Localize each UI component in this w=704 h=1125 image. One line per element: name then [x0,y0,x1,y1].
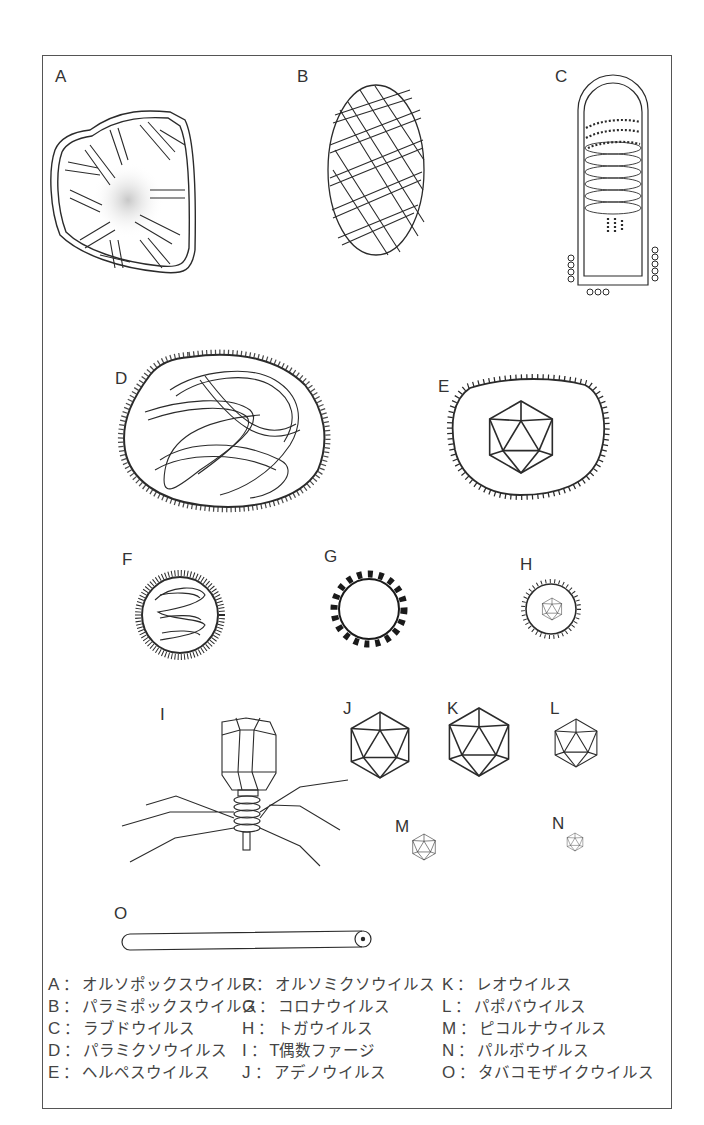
virus-h-drawing [523,581,579,637]
legend-name: アデノウイルス [274,1064,386,1082]
legend-item-h: H：トガウイルス [242,1020,373,1038]
virus-d-drawing [120,352,327,509]
legend-name: T偶数ファージ [270,1042,375,1060]
virus-f-drawing [138,573,222,657]
virus-c-drawing [568,75,658,295]
virus-g-drawing [334,574,404,644]
virus-n-drawing [567,833,583,851]
label-g: G [324,548,337,565]
legend-item-e: E：ヘルペスウイルス [48,1064,210,1082]
legend-name: トガウイルス [277,1020,373,1038]
label-n: N [552,815,564,832]
legend-name: オルソミクソウイルス [275,976,435,994]
label-j: J [343,700,352,717]
virus-m-drawing [413,834,436,860]
label-o: O [114,905,127,922]
legend-name: パルボウイルス [477,1042,589,1060]
label-l: L [550,700,559,717]
legend-name: パラミクソウイルス [83,1042,227,1060]
virus-o-drawing [122,931,371,950]
legend-name: レオウイルス [476,976,572,994]
label-a: A [55,68,66,85]
legend-item-f: F：オルソミクソウイルス [242,976,435,994]
legend-name: オルソポックスウイルス [82,976,258,994]
virus-illustrations [0,0,704,1125]
legend-name: パラミポックスウイルス [82,998,258,1016]
legend-item-g: G：コロナウイルス [242,998,390,1016]
virus-k-drawing [449,708,508,776]
label-f: F [122,551,132,568]
virus-l-drawing [555,719,597,767]
virus-a-drawing [51,111,195,273]
label-m: M [395,818,409,835]
label-k: K [447,700,458,717]
legend-item-i: I：T偶数ファージ [242,1042,375,1060]
legend-name: パポバウイルス [474,998,586,1016]
virus-j-drawing [351,712,408,778]
label-d: D [115,370,127,387]
virus-b-drawing [328,85,424,255]
label-b: B [297,68,308,85]
legend-item-a: A：オルソポックスウイルス [48,976,258,994]
legend-name: ヘルペスウイルス [82,1064,210,1082]
legend-item-l: L：パポバウイルス [442,998,586,1016]
legend-name: ラブドウイルス [83,1020,195,1038]
legend-item-m: M：ピコルナウイルス [442,1020,607,1038]
legend-item-d: D：パラミクソウイルス [48,1042,227,1060]
virus-i-drawing [122,718,348,866]
legend-item-j: J：アデノウイルス [242,1064,386,1082]
label-e: E [438,378,449,395]
legend-item-n: N：パルボウイルス [442,1042,589,1060]
legend-item-k: K：レオウイルス [442,976,572,994]
legend-item-b: B：パラミポックスウイルス [48,998,258,1016]
virus-e-drawing [450,377,608,498]
label-c: C [555,68,567,85]
legend-name: ピコルナウイルス [479,1020,607,1038]
legend-name: コロナウイルス [278,998,390,1016]
label-i: I [160,706,165,723]
legend-item-o: O：タバコモザイクウイルス [442,1064,654,1082]
legend-name: タバコモザイクウイルス [478,1064,654,1082]
legend-item-c: C：ラブドウイルス [48,1020,195,1038]
label-h: H [520,556,532,573]
